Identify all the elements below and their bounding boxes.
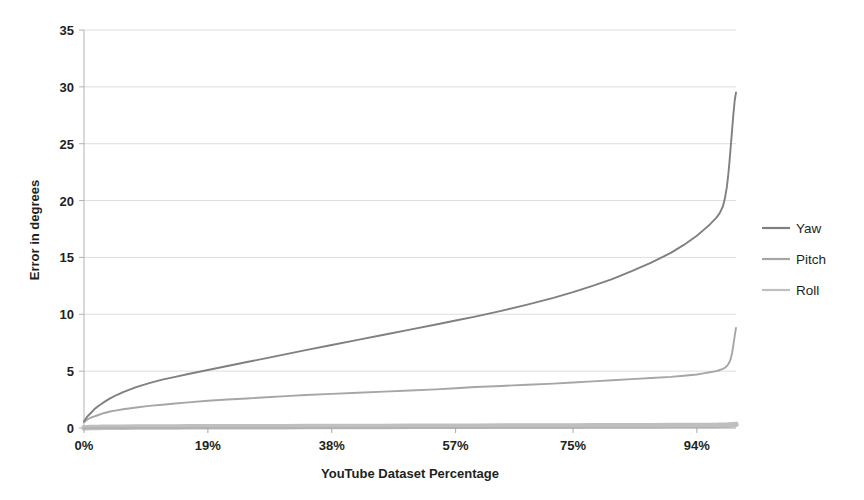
y-axis-tick-label: 15 [60,250,74,265]
x-axis-tick-label: 0% [75,438,94,453]
x-axis-tick-label: 75% [560,438,586,453]
series-line-roll [84,424,736,427]
y-axis-tick-label: 10 [60,307,74,322]
legend-label-yaw: Yaw [796,221,822,236]
y-axis-tick-label: 25 [60,137,74,152]
x-axis-title: YouTube Dataset Percentage [321,466,499,481]
legend-label-roll: Roll [796,283,819,298]
chart-container: 05101520253035 0%19%38%57%75%94% YouTube… [0,0,864,500]
x-axis-tick-label: 57% [443,438,469,453]
y-axis-tick-label: 5 [67,364,74,379]
y-axis-title: Error in degrees [27,180,42,280]
y-axis-tick-label: 20 [60,194,74,209]
line-chart-svg: 05101520253035 0%19%38%57%75%94% YouTube… [0,0,864,500]
x-axis-tick-label: 38% [319,438,345,453]
y-axis-tick-label: 30 [60,80,74,95]
legend-label-pitch: Pitch [796,252,826,267]
x-axis-tick-label: 19% [195,438,221,453]
x-axis-tick-label: 94% [684,438,710,453]
y-axis-tick-label: 0 [67,421,74,436]
y-axis-tick-label: 35 [60,23,74,38]
